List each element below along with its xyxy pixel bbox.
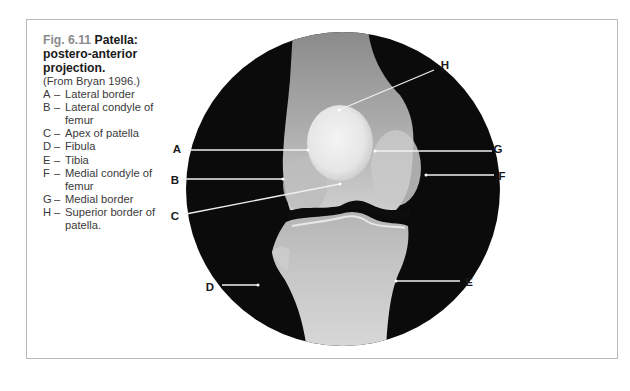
label-c: C: [171, 210, 179, 222]
knee-xray-image: [0, 0, 630, 391]
label-a: A: [173, 143, 181, 155]
label-d: D: [206, 281, 214, 293]
label-b: B: [171, 174, 179, 186]
patella-shape: [307, 105, 373, 181]
label-e: E: [465, 276, 473, 288]
medial-condyle-shape: [371, 130, 421, 206]
label-f: F: [498, 170, 505, 182]
label-h: H: [441, 59, 449, 71]
label-g: G: [494, 143, 503, 155]
xray-content: [180, 30, 510, 350]
